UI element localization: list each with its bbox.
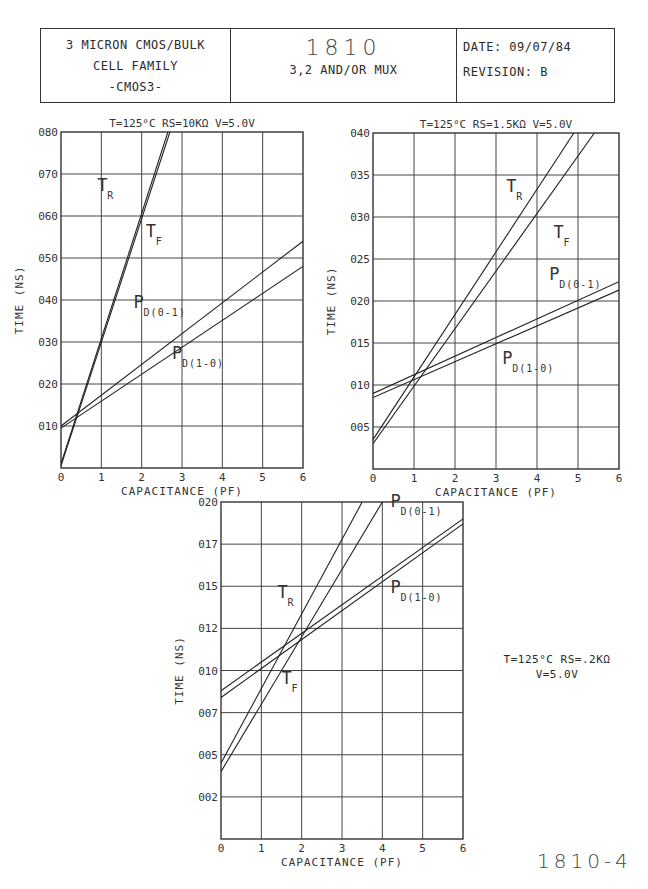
series-line-tr (221, 502, 362, 763)
series-label-subscript: F (156, 236, 163, 247)
x-axis-label: CAPACITANCE (PF) (281, 856, 403, 869)
x-tick-label: 6 (300, 471, 307, 484)
y-tick-label: 025 (350, 253, 370, 266)
x-tick-label: 1 (98, 471, 105, 484)
x-tick-label: 5 (575, 472, 582, 485)
series-label: P (390, 491, 400, 511)
y-tick-label: 015 (350, 337, 370, 350)
y-axis-label: TIME (NS) (173, 636, 186, 705)
x-tick-label: 4 (219, 471, 226, 484)
chart-1: 0100200300400500600700800123456CAPACITAN… (13, 117, 306, 498)
y-tick-label: 020 (198, 496, 218, 509)
x-tick-label: 3 (179, 471, 186, 484)
y-tick-label: 040 (38, 294, 58, 307)
y-tick-label: 012 (198, 622, 218, 635)
x-tick-label: 4 (379, 842, 386, 855)
chart3-condition-line-2: V=5.0V (492, 667, 622, 682)
series-label-subscript: D(1-0) (400, 592, 442, 603)
series-label-subscript: F (292, 683, 299, 694)
x-tick-label: 2 (138, 471, 145, 484)
y-tick-label: 005 (198, 749, 218, 762)
y-tick-label: 005 (350, 421, 370, 434)
y-tick-label: 040 (350, 127, 370, 140)
chart3-condition-line-1: T=125°C RS=.2KΩ (492, 652, 622, 667)
figure-number: 1810-4 (537, 849, 632, 873)
series-label: P (549, 264, 559, 284)
charts-canvas: 0100200300400500600700800123456CAPACITAN… (0, 0, 648, 889)
y-tick-label: 035 (350, 169, 370, 182)
y-tick-label: 080 (38, 126, 58, 139)
series-label-subscript: D(0-1) (144, 307, 186, 318)
y-axis-label: TIME (NS) (325, 267, 338, 336)
series-label-subscript: D(1-0) (182, 358, 224, 369)
chart-title: T=125°C RS=1.5KΩ V=5.0V (420, 118, 573, 131)
chart-2: 0050100150200250300350400123456CAPACITAN… (325, 118, 622, 499)
series-label: P (502, 348, 512, 368)
y-tick-label: 020 (350, 295, 370, 308)
y-tick-label: 007 (198, 707, 218, 720)
x-axis-label: CAPACITANCE (PF) (121, 485, 243, 498)
y-tick-label: 060 (38, 210, 58, 223)
x-tick-label: 4 (534, 472, 541, 485)
series-label: T (277, 582, 287, 602)
series-label: P (134, 292, 144, 312)
series-label: P (172, 343, 182, 363)
chart-title: T=125°C RS=10KΩ V=5.0V (109, 117, 255, 130)
series-label: T (146, 221, 156, 241)
y-tick-label: 015 (198, 580, 218, 593)
x-tick-label: 5 (259, 471, 266, 484)
y-tick-label: 010 (38, 420, 58, 433)
x-tick-label: 0 (370, 472, 377, 485)
series-label: T (506, 176, 516, 196)
series-line-tr (373, 133, 574, 440)
chart-3: 0020050070100120150170200123456CAPACITAN… (173, 491, 466, 869)
x-tick-label: 0 (58, 471, 65, 484)
chart3-conditions: T=125°C RS=.2KΩ V=5.0V (492, 652, 622, 682)
y-tick-label: 010 (198, 665, 218, 678)
x-tick-label: 1 (258, 842, 265, 855)
series-label-subscript: D(1-0) (512, 363, 554, 374)
y-axis-label: TIME (NS) (13, 266, 26, 335)
x-axis-label: CAPACITANCE (PF) (435, 486, 557, 499)
x-tick-label: 1 (411, 472, 418, 485)
series-label-subscript: R (516, 191, 523, 202)
y-tick-label: 002 (198, 791, 218, 804)
y-tick-label: 050 (38, 252, 58, 265)
series-line-tf (61, 132, 170, 466)
x-tick-label: 3 (339, 842, 346, 855)
x-tick-label: 6 (460, 842, 467, 855)
series-label-subscript: F (563, 237, 570, 248)
y-tick-label: 030 (38, 336, 58, 349)
y-tick-label: 010 (350, 379, 370, 392)
series-label: T (282, 668, 292, 688)
series-label-subscript: R (287, 597, 294, 608)
series-label-subscript: D(0-1) (559, 279, 601, 290)
series-label: P (390, 577, 400, 597)
x-tick-label: 2 (298, 842, 305, 855)
y-tick-label: 030 (350, 211, 370, 224)
x-tick-label: 3 (493, 472, 500, 485)
x-tick-label: 5 (419, 842, 426, 855)
series-label: T (553, 222, 563, 242)
series-label-subscript: R (107, 190, 114, 201)
y-tick-label: 017 (198, 538, 218, 551)
series-label-subscript: D(0-1) (400, 506, 442, 517)
x-tick-label: 2 (452, 472, 459, 485)
x-tick-label: 6 (616, 472, 623, 485)
series-label: T (97, 175, 107, 195)
y-tick-label: 070 (38, 168, 58, 181)
x-tick-label: 0 (218, 842, 225, 855)
y-tick-label: 020 (38, 378, 58, 391)
